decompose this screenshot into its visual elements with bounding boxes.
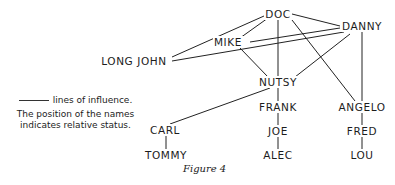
figure-caption: Figure 4 (183, 163, 226, 174)
node-fred: FRED (346, 125, 378, 137)
node-lou: LOU (349, 149, 374, 161)
node-carl: CARL (149, 124, 181, 136)
node-angelo: ANGELO (337, 101, 386, 113)
edge-danny-nutsy (295, 34, 350, 77)
influence-lines (0, 0, 395, 185)
line-swatch-icon (19, 100, 49, 101)
node-frank: FRANK (258, 101, 298, 113)
edge-mike-nutsy (240, 48, 268, 77)
edge-danny-long-john (172, 32, 344, 61)
legend-note: The position of the names indicates rela… (8, 109, 143, 131)
node-joe: JOE (267, 125, 289, 137)
legend-line-label: lines of influence. (53, 95, 133, 106)
edge-doc-danny (292, 14, 340, 26)
legend: lines of influence. The position of the … (8, 95, 143, 131)
node-mike: MIKE (213, 36, 243, 48)
legend-line-row: lines of influence. (8, 95, 143, 106)
edge-nutsy-carl (170, 88, 270, 124)
node-doc: DOC (264, 8, 291, 20)
node-danny: DANNY (341, 20, 383, 32)
legend-note-line1: The position of the names (8, 109, 143, 120)
node-long-john: LONG JOHN (100, 55, 168, 67)
legend-note-line2: indicates relative status. (8, 120, 143, 131)
node-alec: ALEC (262, 149, 293, 161)
node-tommy: TOMMY (144, 149, 188, 161)
edge-doc-angelo (292, 20, 355, 101)
node-nutsy: NUTSY (258, 76, 298, 88)
